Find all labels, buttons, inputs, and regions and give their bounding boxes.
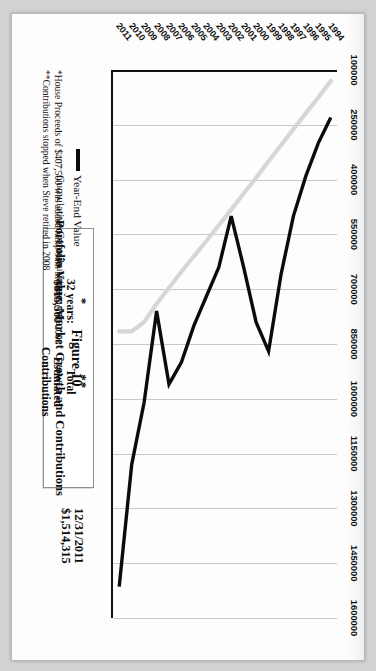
value-tick-label: 100000: [349, 54, 360, 85]
value-tick-label: 400000: [349, 164, 360, 195]
value-tick-label: 1300000: [349, 490, 360, 526]
legend-item-year-end-value: Year-End Value: [72, 149, 84, 294]
year-end-value-line: [119, 118, 331, 587]
contributions-note-line1: Total: [63, 347, 75, 417]
value-tick-label: 250000: [349, 109, 360, 140]
value-tick-label: 1150000: [349, 436, 360, 472]
value-tick-label: 850000: [349, 328, 360, 359]
footnote-contributions-stopped: **Contributions stopped when Steve retir…: [40, 70, 52, 400]
legend-swatch-icon: [76, 149, 80, 171]
value-tick-label: 1600000: [349, 600, 360, 636]
series-lines: [111, 70, 337, 618]
gridline: [113, 618, 337, 619]
plot-area: 1000002500004000005500007000008500001000…: [111, 70, 337, 618]
scanned-page: 1000002500004000005500007000008500001000…: [0, 0, 376, 671]
value-tick-label: 1450000: [349, 545, 360, 581]
cumulative-contributions-line: [119, 81, 331, 331]
legend-label: Year-End Value: [72, 175, 84, 246]
paper-sheet: 1000002500004000005500007000008500001000…: [11, 13, 365, 661]
value-tick-label: 700000: [349, 274, 360, 305]
end-value-callout: 12/31/2011 $1,514,315: [59, 508, 85, 564]
rotated-chart-canvas: 1000002500004000005500007000008500001000…: [12, 14, 364, 634]
value-tick-label: 1000000: [349, 381, 360, 417]
footnote-house-proceeds: *House Proceeds of $407,500 was added lu…: [52, 70, 64, 400]
double-asterisk-marker: **: [76, 347, 88, 417]
footnotes: *House Proceeds of $407,500 was added lu…: [40, 70, 64, 400]
end-date-label: 12/31/2011: [72, 508, 85, 564]
value-tick-label: 550000: [349, 219, 360, 250]
end-value-label: $1,514,315: [59, 508, 72, 564]
